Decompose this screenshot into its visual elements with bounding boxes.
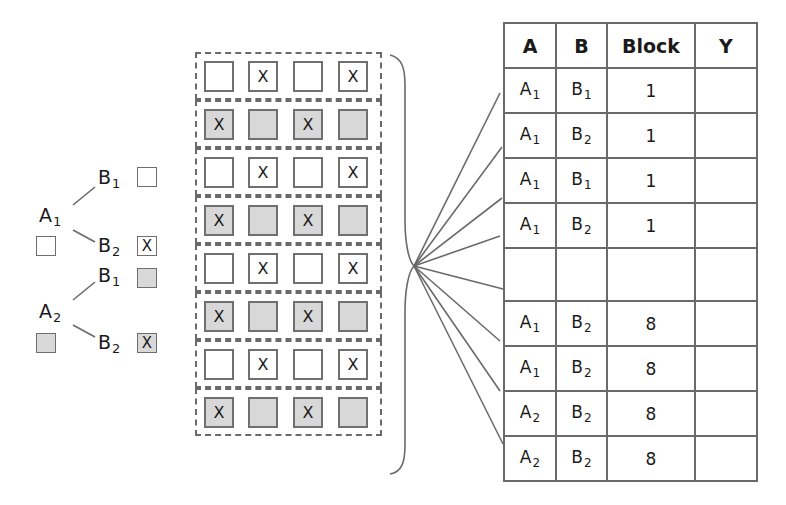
plot: X	[204, 301, 234, 332]
plot: X	[248, 253, 278, 284]
cell-block: 1	[607, 203, 695, 248]
cell-b: B2	[556, 436, 607, 481]
plot	[204, 349, 234, 380]
plot	[248, 397, 278, 428]
brace	[390, 55, 414, 474]
cell-a: A2	[504, 391, 556, 436]
cell-a	[504, 248, 556, 301]
table-row: A1 B1 1	[504, 158, 757, 203]
cell-a: A1	[504, 346, 556, 391]
cell-a: A1	[504, 158, 556, 203]
legend-a2-b1-label: B1	[98, 266, 120, 288]
legend-a1-label: A1	[39, 206, 61, 228]
tree-branch-a2-b2	[73, 325, 95, 337]
legend-a2-b2-swatch: X	[137, 333, 157, 353]
cell-b: B2	[556, 391, 607, 436]
block-row-3: X X	[195, 148, 382, 196]
plot: X	[248, 349, 278, 380]
header-y: Y	[695, 23, 757, 68]
header-b: B	[556, 23, 607, 68]
plot	[293, 157, 323, 188]
plot	[248, 301, 278, 332]
cell-block: 8	[607, 391, 695, 436]
legend-a1-b2-swatch: X	[137, 236, 157, 256]
data-table: A B Block Y A1 B1 1 A1 B2 1 A1 B1 1 A1 B…	[503, 22, 758, 482]
cell-y[interactable]	[695, 301, 757, 346]
block-row-1: X X	[195, 52, 382, 100]
header-a: A	[504, 23, 556, 68]
plot	[204, 61, 234, 92]
legend-a1-swatch	[36, 236, 56, 256]
table-row-ellipsis	[504, 248, 757, 301]
table-row: A1 B2 8	[504, 301, 757, 346]
cell-block: 1	[607, 113, 695, 158]
plot	[338, 109, 368, 140]
legend-a2-b2-label: B2	[98, 333, 120, 355]
table-row: A1 B2 1	[504, 113, 757, 158]
block-row-7: X X	[195, 340, 382, 388]
legend-a2-b1-swatch	[137, 268, 157, 288]
plot: X	[338, 253, 368, 284]
cell-block: 1	[607, 68, 695, 113]
plot	[338, 397, 368, 428]
legend-a2-label: A2	[39, 302, 61, 324]
block-row-6: X X	[195, 292, 382, 340]
plot	[338, 301, 368, 332]
cell-b: B2	[556, 301, 607, 346]
table-row: A1 B2 1	[504, 203, 757, 248]
table-row: A1 B2 8	[504, 346, 757, 391]
plot: X	[293, 205, 323, 236]
cell-b: B2	[556, 113, 607, 158]
cell-b: B2	[556, 346, 607, 391]
block-row-4: X X	[195, 196, 382, 244]
cell-y[interactable]	[695, 203, 757, 248]
plot	[204, 253, 234, 284]
plot: X	[338, 157, 368, 188]
plot	[248, 205, 278, 236]
tree-branch-a1-b2	[73, 230, 95, 242]
plot: X	[248, 61, 278, 92]
cell-a: A1	[504, 68, 556, 113]
cell-b: B1	[556, 158, 607, 203]
cell-y[interactable]	[695, 346, 757, 391]
plot	[248, 109, 278, 140]
cell-block: 1	[607, 158, 695, 203]
cell-y[interactable]	[695, 391, 757, 436]
plot	[293, 253, 323, 284]
plot: X	[204, 397, 234, 428]
cell-a: A1	[504, 113, 556, 158]
plot: X	[338, 349, 368, 380]
cell-a: A1	[504, 301, 556, 346]
plot: X	[293, 301, 323, 332]
cell-y[interactable]	[695, 113, 757, 158]
block-row-8: X X	[195, 388, 382, 436]
block-row-5: X X	[195, 244, 382, 292]
cell-b: B1	[556, 68, 607, 113]
table-header-row: A B Block Y	[504, 23, 757, 68]
plot: X	[248, 157, 278, 188]
field-layout-grid: X X X X X X X X X X X X X X X	[195, 52, 382, 464]
cell-y[interactable]	[695, 68, 757, 113]
cell-block: 8	[607, 436, 695, 481]
plot: X	[338, 61, 368, 92]
table-row: A1 B1 1	[504, 68, 757, 113]
table-row: A2 B2 8	[504, 391, 757, 436]
plot: X	[204, 205, 234, 236]
plot: X	[293, 397, 323, 428]
tree-branch-a2-b1	[73, 282, 95, 300]
plot	[204, 157, 234, 188]
plot	[293, 61, 323, 92]
cell-a: A2	[504, 436, 556, 481]
plot: X	[204, 109, 234, 140]
cell-y[interactable]	[695, 248, 757, 301]
block-row-2: X X	[195, 100, 382, 148]
legend-a2-swatch	[36, 333, 56, 353]
header-block: Block	[607, 23, 695, 68]
plot: X	[293, 109, 323, 140]
cell-y[interactable]	[695, 158, 757, 203]
table-row: A2 B2 8	[504, 436, 757, 481]
cell-y[interactable]	[695, 436, 757, 481]
plot	[293, 349, 323, 380]
cell-block	[607, 248, 695, 301]
cell-b: B2	[556, 203, 607, 248]
